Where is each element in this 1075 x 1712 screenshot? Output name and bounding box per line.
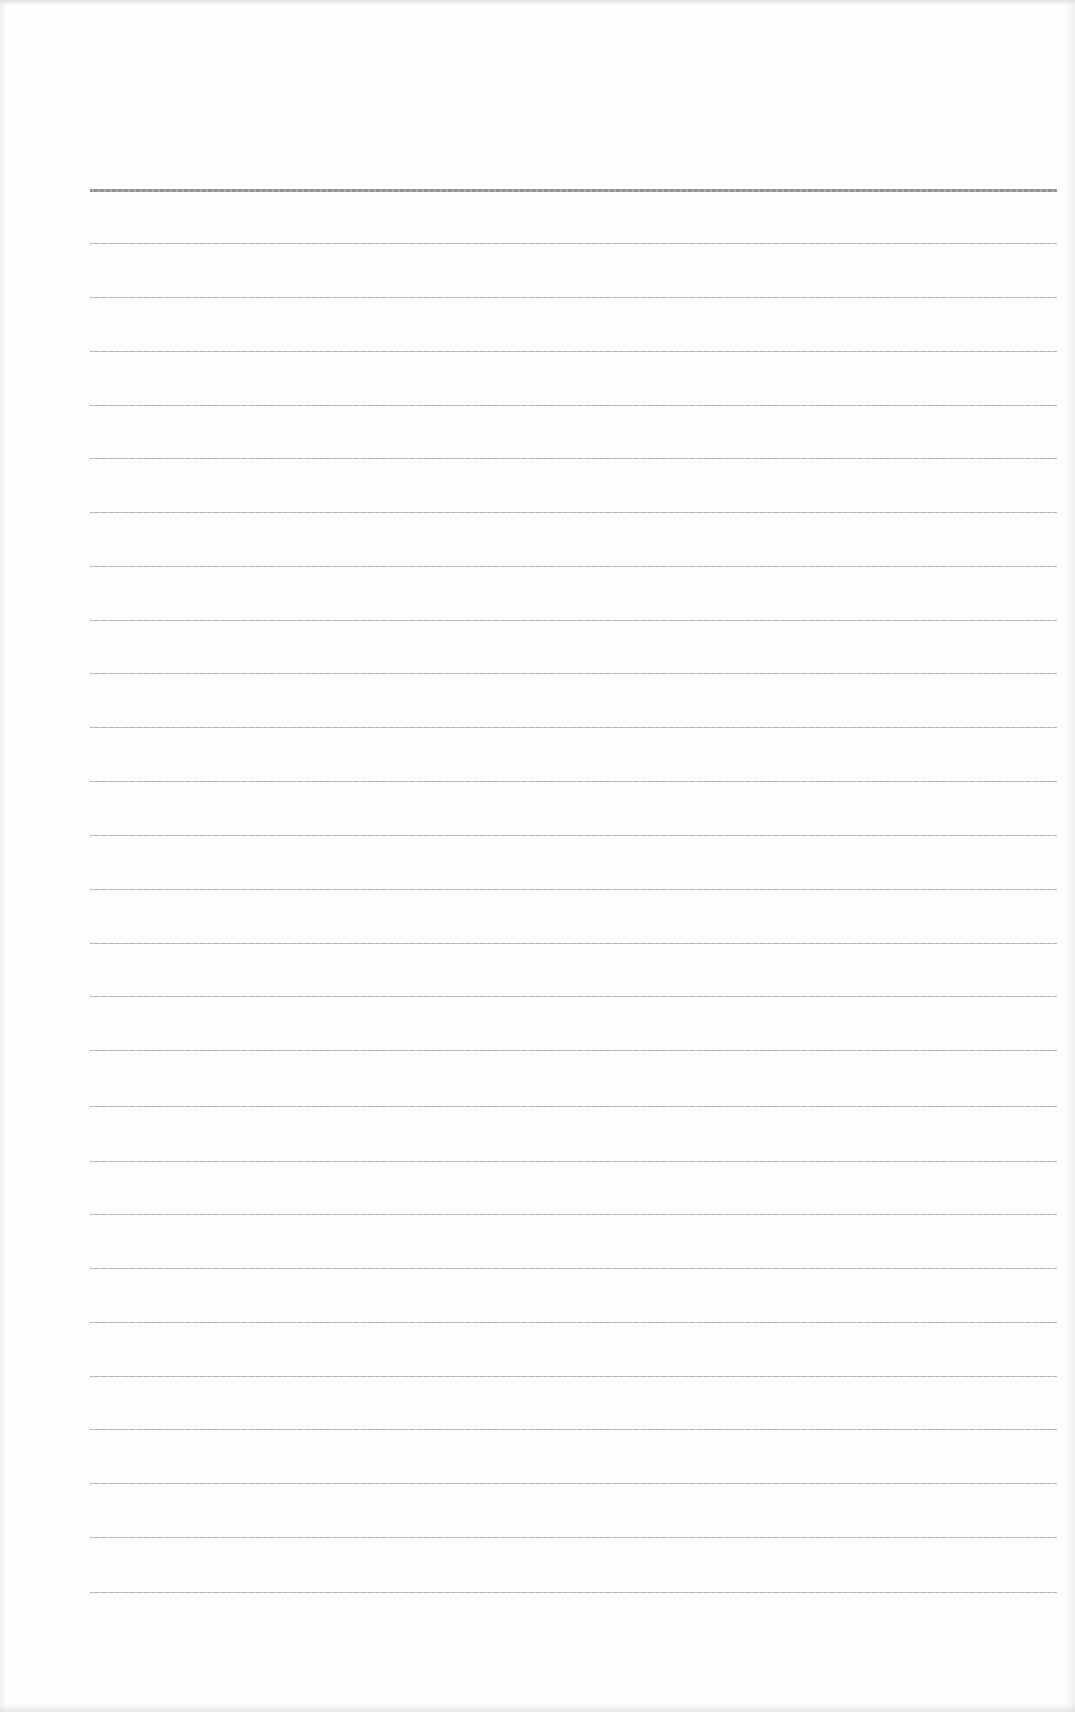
rule-line <box>90 943 1057 944</box>
rule-line <box>90 1161 1057 1162</box>
rule-line <box>90 1322 1057 1323</box>
rule-line <box>90 727 1057 728</box>
rule-line <box>90 673 1057 674</box>
rule-line <box>90 781 1057 782</box>
rule-line <box>90 1483 1057 1484</box>
rule-line <box>90 1214 1057 1215</box>
rule-line <box>90 889 1057 890</box>
rule-line <box>90 1376 1057 1377</box>
rule-line <box>90 566 1057 567</box>
rule-line <box>90 1429 1057 1430</box>
rule-line <box>90 620 1057 621</box>
rule-line <box>90 1268 1057 1269</box>
ruled-paper-page <box>0 0 1075 1712</box>
scan-edge-top <box>0 0 1075 5</box>
scan-edge-right <box>1065 0 1075 1712</box>
rule-line <box>90 458 1057 459</box>
rule-line <box>90 996 1057 997</box>
rule-line <box>90 405 1057 406</box>
rule-line <box>90 297 1057 298</box>
rule-line <box>90 1050 1057 1051</box>
rule-line <box>90 512 1057 513</box>
rule-line <box>90 1592 1057 1593</box>
scan-edge-left <box>0 0 6 1712</box>
rule-line <box>90 835 1057 836</box>
rule-line <box>90 1537 1057 1538</box>
rule-line <box>90 1106 1057 1107</box>
header-rule-line <box>90 189 1057 192</box>
scan-edge-bottom <box>0 1704 1075 1712</box>
rule-line <box>90 351 1057 352</box>
rule-line <box>90 243 1057 244</box>
